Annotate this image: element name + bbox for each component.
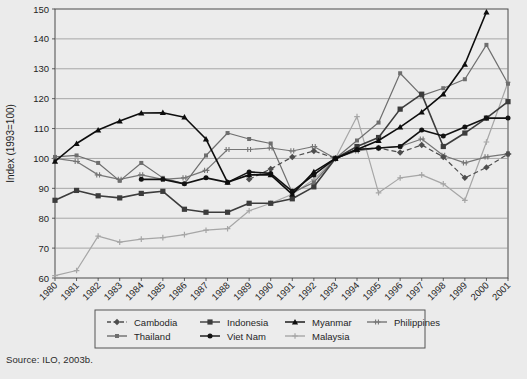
marker-square [203,210,208,215]
x-tick-label: 1989 [231,280,254,303]
marker-square [506,82,510,86]
x-tick-label: 1990 [252,280,275,303]
legend-label: Myanmar [312,317,352,328]
source-note: Source: ILO, 2003b. [6,354,93,365]
marker-square [115,334,119,338]
legend-label: Indonesia [227,317,269,328]
marker-square [182,207,187,212]
x-tick-label: 1995 [360,280,383,303]
marker-square [398,71,402,75]
marker-circle [182,181,187,186]
x-tick-label: 1986 [166,280,189,303]
x-tick-label: 2000 [468,280,491,303]
line-chart: 6070809010011012013014015019801981198219… [0,0,527,379]
x-tick-label: 1985 [145,280,168,303]
marker-square [441,86,445,90]
x-tick-label: 1998 [425,280,448,303]
marker-square [505,99,510,104]
marker-square [52,198,57,203]
marker-circle [139,177,144,182]
marker-square [225,210,230,215]
marker-square [377,121,381,125]
marker-square [118,179,122,183]
marker-square [204,153,208,157]
y-tick-label: 90 [38,183,49,194]
marker-circle [376,145,381,150]
plot-area [55,9,508,278]
marker-square [247,201,252,206]
x-tick-label: 1982 [80,280,103,303]
x-tick-label: 2001 [490,280,513,303]
y-tick-label: 70 [38,243,49,254]
y-tick-label: 80 [38,213,49,224]
marker-square [355,139,359,143]
marker-square [96,193,101,198]
marker-circle [398,144,403,149]
y-tick-label: 120 [33,93,49,104]
marker-square [75,153,79,157]
legend-label: Philippines [394,317,440,328]
marker-circle [160,177,165,182]
x-tick-label: 1993 [317,280,340,303]
marker-square [269,142,273,146]
marker-square [484,43,488,47]
marker-square [160,189,165,194]
legend-label: Malaysia [312,331,350,342]
marker-square [462,130,467,135]
marker-square [268,201,273,206]
y-tick-label: 130 [33,63,49,74]
x-tick-label: 1992 [296,280,319,303]
marker-square [419,92,424,97]
marker-circle [441,134,446,139]
marker-circle [484,116,489,121]
marker-square [139,161,143,165]
x-tick-label: 1984 [123,280,146,303]
marker-square [398,107,403,112]
marker-square [463,77,467,81]
x-tick-label: 1999 [447,280,470,303]
marker-square [74,188,79,193]
x-tick-label: 1997 [403,280,426,303]
x-tick-label: 1983 [101,280,124,303]
x-tick-label: 1994 [339,280,362,303]
marker-circle [462,125,467,130]
y-tick-label: 110 [34,123,49,134]
marker-circle [204,175,209,180]
marker-circle [506,116,511,121]
y-axis-title: Index (1993=100) [5,104,16,183]
legend-label: Viet Nam [227,331,266,342]
marker-square [311,184,316,189]
marker-square [290,196,295,201]
marker-square [139,191,144,196]
marker-square [226,131,230,135]
marker-square [117,195,122,200]
x-tick-label: 1996 [382,280,405,303]
marker-square [441,144,446,149]
marker-square [247,137,251,141]
x-tick-label: 1987 [188,280,211,303]
marker-circle [208,334,213,339]
figure-container: 6070809010011012013014015019801981198219… [0,0,527,379]
y-tick-label: 150 [33,4,49,15]
x-tick-label: 1991 [274,280,297,303]
legend-label: Cambodia [134,317,178,328]
marker-square [96,161,100,165]
marker-circle [419,128,424,133]
legend-label: Thailand [134,331,170,342]
marker-square [207,319,212,324]
x-tick-label: 1981 [58,280,81,303]
y-tick-label: 100 [33,153,49,164]
y-tick-label: 140 [33,33,49,44]
y-tick-label: 60 [38,273,49,284]
x-tick-label: 1988 [209,280,232,303]
